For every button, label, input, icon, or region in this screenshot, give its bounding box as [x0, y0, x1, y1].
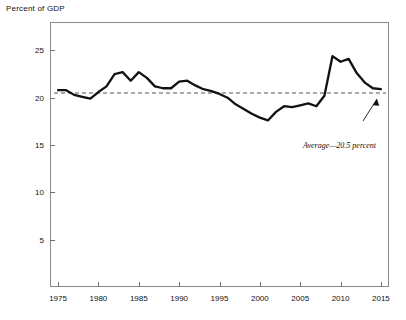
average-annotation-label: Average—20.5 percent	[303, 141, 376, 150]
chart-plot-layer	[0, 0, 406, 320]
chart-container: Percent of GDP 252015105 197519801985199…	[0, 0, 406, 320]
data-series-line	[58, 56, 381, 120]
